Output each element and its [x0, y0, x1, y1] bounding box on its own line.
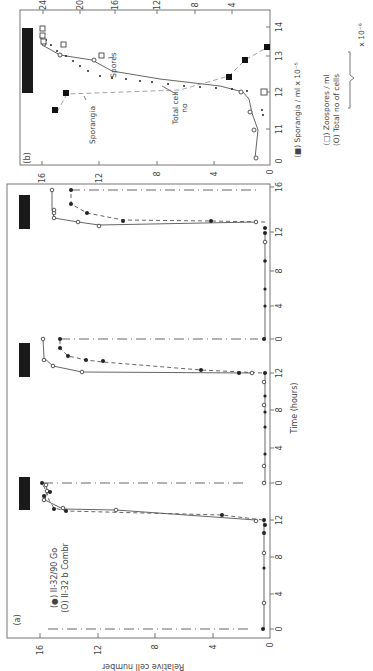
b-sporangia-points [52, 44, 270, 113]
panel-a-dark-bar-2 [19, 343, 30, 377]
a-xtick-c3-16: 16 [275, 182, 284, 192]
a-xtick-c1-4: 4 [275, 591, 284, 596]
b-legend-total: (O) Total no of cells [332, 74, 341, 146]
a-go-rise-c3 [71, 190, 265, 222]
panel-b-time-axis: 0 11 12 13 14 [266, 22, 284, 164]
a-combr-rise-c3 [52, 190, 256, 225]
b-annotation-sporangia: Sporangia [88, 106, 97, 144]
a-legend-combr: (O) II-32 b Combr [61, 542, 70, 612]
panel-b-dark-period-bar [22, 28, 33, 93]
b-ltick-12: 12 [95, 173, 104, 183]
a-xtick-c3-0: 0 [275, 336, 284, 341]
b-ltick-0: 0 [266, 169, 275, 174]
a-points-c1 [40, 481, 258, 523]
a-ytick-4: 4 [209, 644, 218, 649]
a-xtick-c1-12: 12 [275, 515, 284, 525]
a-legend-go: (●) II-32/90 Go [50, 548, 59, 608]
a-xtick-c1-0: 0 [275, 626, 284, 631]
panel-a: 16 12 8 4 0 Relative cell number 0 4 8 [7, 182, 299, 671]
b-annotation-total-no: no [180, 103, 189, 113]
panel-a-dark-bar-3 [19, 195, 30, 229]
a-ytick-16: 16 [36, 645, 45, 655]
b-annotation-total-cell: Total cell [171, 92, 180, 126]
panel-b-frame [20, 10, 270, 165]
b-xtick-11: 11 [275, 124, 284, 134]
a-combr-rise-c2 [43, 339, 252, 373]
a-dilution-lines [43, 190, 258, 629]
a-xtick-c3-4: 4 [275, 303, 284, 308]
a-ytick-12: 12 [94, 645, 103, 655]
panel-b-left-axis: 16 12 8 4 0 [38, 161, 275, 183]
panel-a-label: (a) [13, 614, 22, 625]
panel-b: 16 12 8 4 0 24 20 16 12 8 4 0 [20, 0, 366, 183]
a-ytick-8: 8 [151, 644, 160, 649]
b-ltick-4: 4 [210, 171, 219, 176]
a-xlabel: Time (hours) [290, 383, 299, 435]
b-annotation-spores: Spores [109, 52, 118, 78]
panel-b-right-axis: 24 20 16 12 8 4 [39, 0, 237, 14]
b-ltick-16: 16 [38, 173, 47, 183]
a-xtick-c2-12: 12 [275, 368, 284, 378]
b-legend-sporangia: (■) Sporangia / ml x 10⁻⁵ [293, 62, 302, 158]
b-rtick-4: 4 [228, 2, 237, 7]
b-rtick-16: 16 [111, 0, 120, 10]
panel-a-value-axis: 16 12 8 4 0 Relative cell number [36, 633, 275, 671]
b-legend-bracket [348, 52, 354, 108]
panel-a-frame [7, 184, 270, 638]
a-combr-rise-c1 [45, 483, 256, 520]
b-total-cells-points [42, 42, 258, 160]
b-xtick-14: 14 [275, 22, 284, 32]
b-rtick-20: 20 [76, 0, 85, 10]
panel-a-dark-bar-1 [19, 477, 30, 510]
a-xtick-c2-8: 8 [275, 407, 284, 412]
a-xtick-c3-12: 12 [275, 227, 284, 237]
b-xtick-0: 0 [275, 158, 284, 163]
panel-b-label: (b) [23, 152, 32, 163]
a-go-rise-c2 [60, 339, 262, 373]
a-xtick-c2-4: 4 [275, 445, 284, 450]
panel-a-time-axis: 0 4 8 12 0 4 8 12 0 4 8 12 16 Time (hour… [270, 182, 299, 632]
panel-b-legend: (■) Sporangia / ml x 10⁻⁵ (□) Zoospores … [293, 23, 366, 158]
a-go-rise-c1 [42, 483, 263, 520]
a-xtick-c1-8: 8 [275, 554, 284, 559]
a-points-c2 [41, 337, 254, 375]
b-rtick-12: 12 [153, 0, 162, 10]
b-zoospores-points [40, 26, 267, 95]
b-rtick-24: 24 [39, 0, 48, 10]
b-legend-zoospores: (□) Zoospores / ml [322, 74, 331, 145]
a-xtick-c3-8: 8 [275, 268, 284, 273]
a-ylabel: Relative cell number [101, 662, 184, 671]
b-rtick-8: 8 [191, 2, 200, 7]
b-legend-multiplier: x 10⁻⁶ [357, 23, 366, 46]
b-xtick-13: 13 [275, 51, 284, 61]
a-ytick-0: 0 [266, 642, 275, 647]
b-total-cells-line [40, 36, 258, 158]
a-points-c3 [50, 188, 258, 228]
a-xtick-c2-0: 0 [275, 480, 284, 485]
b-xtick-12: 12 [275, 87, 284, 97]
figure: 16 12 8 4 0 24 20 16 12 8 4 0 [0, 0, 373, 671]
b-ltick-8: 8 [153, 171, 162, 176]
